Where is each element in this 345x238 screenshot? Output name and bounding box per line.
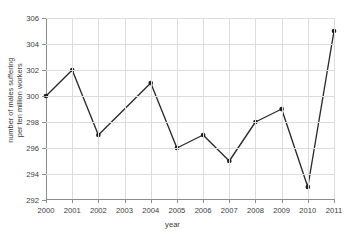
gridline-horizontal	[46, 174, 334, 175]
y-axis-tick	[42, 148, 46, 149]
x-axis-tick-label: 2002	[90, 206, 107, 215]
gridline-vertical	[125, 18, 126, 200]
y-axis-tick-label: 304	[26, 40, 39, 49]
x-axis-tick-label: 2003	[116, 206, 133, 215]
y-axis-tick-label: 296	[26, 144, 39, 153]
plot-area: 2922942962983003023043062000200120022003…	[46, 18, 334, 200]
y-axis-tick-label: 298	[26, 118, 39, 127]
line-chart: number of males suffering per ten millio…	[0, 0, 345, 238]
x-axis-tick	[151, 199, 152, 203]
x-axis-tick-label: 2008	[247, 206, 264, 215]
gridline-vertical	[334, 18, 335, 200]
x-axis-tick	[72, 199, 73, 203]
x-axis-tick	[177, 199, 178, 203]
x-axis-tick	[255, 199, 256, 203]
x-axis-tick-label: 2000	[38, 206, 55, 215]
x-axis-tick-label: 2010	[299, 206, 316, 215]
x-axis-tick-label: 2005	[168, 206, 185, 215]
y-axis-tick	[42, 44, 46, 45]
y-axis-title: number of males suffering per ten millio…	[4, 0, 28, 200]
gridline-vertical	[308, 18, 309, 200]
x-axis-tick-label: 2007	[221, 206, 238, 215]
y-axis-title-line-2: per ten million workers	[16, 57, 25, 142]
gridline-horizontal	[46, 44, 334, 45]
y-axis-tick-label: 300	[26, 92, 39, 101]
y-axis-tick-label: 306	[26, 14, 39, 23]
y-axis-tick-label: 294	[26, 170, 39, 179]
gridline-vertical	[282, 18, 283, 200]
y-axis-tick	[42, 174, 46, 175]
y-axis-tick	[42, 18, 46, 19]
x-axis-tick-label: 2006	[195, 206, 212, 215]
x-axis-tick-label: 2011	[326, 206, 342, 215]
gridline-vertical	[72, 18, 73, 200]
x-axis-tick	[98, 199, 99, 203]
y-axis-tick	[42, 70, 46, 71]
gridline-horizontal	[46, 148, 334, 149]
x-axis-tick	[229, 199, 230, 203]
gridline-horizontal	[46, 96, 334, 97]
gridline-vertical	[177, 18, 178, 200]
gridline-horizontal	[46, 70, 334, 71]
x-axis-tick	[282, 199, 283, 203]
gridline-horizontal	[46, 18, 334, 19]
series-polyline	[46, 31, 334, 187]
y-axis-tick-label: 292	[26, 196, 39, 205]
gridline-vertical	[203, 18, 204, 200]
data-series-line	[46, 18, 334, 200]
gridline-horizontal	[46, 122, 334, 123]
x-axis-tick	[46, 199, 47, 203]
y-axis-title-line-1: number of males suffering	[7, 57, 16, 142]
gridline-vertical	[229, 18, 230, 200]
y-axis-tick-label: 302	[26, 66, 39, 75]
x-axis-tick	[308, 199, 309, 203]
x-axis-tick	[334, 199, 335, 203]
x-axis-tick-label: 2001	[64, 206, 81, 215]
x-axis-tick-label: 2009	[273, 206, 290, 215]
y-axis-tick	[42, 122, 46, 123]
x-axis-tick	[203, 199, 204, 203]
x-axis-tick-label: 2004	[142, 206, 159, 215]
gridline-vertical	[255, 18, 256, 200]
x-axis-title: year	[0, 220, 345, 229]
gridline-vertical	[98, 18, 99, 200]
x-axis-tick	[125, 199, 126, 203]
y-axis-tick	[42, 96, 46, 97]
gridline-vertical	[151, 18, 152, 200]
